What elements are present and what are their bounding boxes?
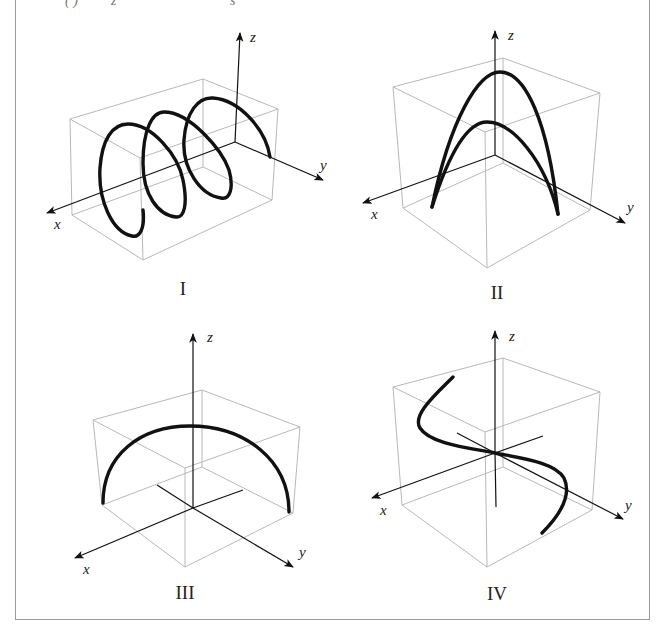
bounding-box xyxy=(393,358,600,567)
y-axis xyxy=(193,508,293,567)
y-axis-label: y xyxy=(623,497,632,513)
panel-1: z y x I xyxy=(47,29,327,299)
panel-label: II xyxy=(491,282,504,303)
bounding-box xyxy=(93,390,300,567)
panel-label: III xyxy=(176,582,195,603)
x-axis xyxy=(75,508,193,558)
bounding-box xyxy=(393,58,600,268)
panel-4: z y x IV xyxy=(372,328,632,604)
z-axis-label: z xyxy=(206,329,213,345)
y-axis-negative xyxy=(495,436,543,453)
x-axis-label: x xyxy=(370,206,378,222)
x-axis-negative xyxy=(157,485,193,508)
y-axis-label: y xyxy=(625,199,634,215)
figure-canvas: z y x I z y x II xyxy=(0,0,658,635)
y-axis xyxy=(495,155,625,223)
y-axis-label: y xyxy=(297,544,306,560)
z-axis-negative xyxy=(495,453,496,507)
panel-2: z y x II xyxy=(363,27,634,303)
helix-curve xyxy=(100,98,270,236)
y-axis xyxy=(235,142,323,180)
y-axis-negative xyxy=(193,490,243,508)
x-axis-label: x xyxy=(53,216,61,232)
x-axis-label: x xyxy=(379,502,387,518)
panel-3: z y x III xyxy=(75,329,306,603)
x-axis-label: x xyxy=(82,561,90,577)
x-axis xyxy=(372,453,495,498)
panel-label: I xyxy=(180,278,186,299)
y-axis-label: y xyxy=(318,157,327,173)
z-axis xyxy=(235,33,240,142)
z-axis-label: z xyxy=(508,328,515,344)
panel-label: IV xyxy=(487,583,507,604)
s-curve xyxy=(418,377,566,533)
z-axis-label: z xyxy=(249,29,256,45)
z-axis-label: z xyxy=(507,27,514,43)
